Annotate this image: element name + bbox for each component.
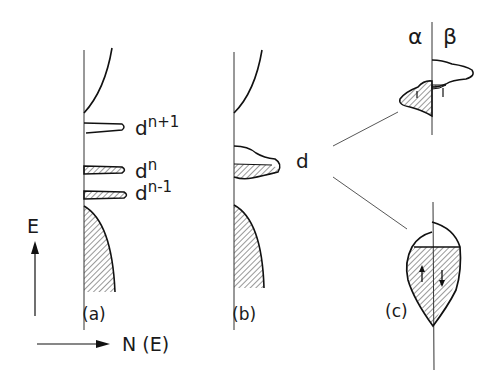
beta-band xyxy=(432,60,473,87)
energy-axis-label: E xyxy=(27,215,39,237)
panel-b-label: (b) xyxy=(232,304,256,324)
density-of-states-diagram: dn+1 dn dn-1 (a) d (b) α xyxy=(0,0,496,384)
dos-axis-label: N (E) xyxy=(122,333,169,355)
connector-line-upper xyxy=(333,112,398,146)
dos-axis: N (E) xyxy=(37,333,169,355)
panel-c-label: (c) xyxy=(385,301,408,321)
dos-arrow-icon xyxy=(96,340,110,348)
label-dn-minus-1: dn-1 xyxy=(135,178,172,205)
drop-filled-region xyxy=(408,247,460,326)
label-d-band: d xyxy=(296,149,309,173)
level-dn-minus-1 xyxy=(84,191,127,199)
beta-label: β xyxy=(443,24,457,49)
level-dn-plus-1 xyxy=(84,123,124,133)
energy-axis: E xyxy=(27,215,39,316)
panel-b-upper-band xyxy=(234,50,262,113)
alpha-label: α xyxy=(408,24,423,49)
panel-a-label: (a) xyxy=(82,304,106,324)
level-dn xyxy=(84,166,125,174)
label-dn-plus-1: dn+1 xyxy=(135,113,179,140)
beta-band-filled xyxy=(432,85,446,89)
alpha-band xyxy=(400,81,432,116)
panel-a-upper-band xyxy=(84,48,112,113)
panel-c-spin-split: α β xyxy=(400,22,473,135)
panel-a: dn+1 dn dn-1 (a) xyxy=(82,48,179,330)
energy-arrow-icon xyxy=(31,241,39,254)
connector-line-lower xyxy=(333,177,407,229)
panel-b: d (b) xyxy=(232,50,309,330)
panel-c-drop: (c) xyxy=(385,202,461,370)
